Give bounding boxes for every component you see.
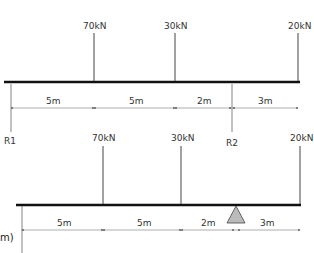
load-label-20kn: 20kN (288, 21, 311, 31)
dim-label-2: 5m (129, 96, 144, 106)
dim2-label-2: 5m (137, 218, 152, 228)
dim-label-1: 5m (46, 96, 61, 106)
beam-diagram: 70kN 30kN 20kN R1 R2 5m 5m 2m 3m 70kN 30… (0, 0, 314, 253)
top-beam-diagram: 70kN 30kN 20kN R1 R2 5m 5m 2m 3m (4, 21, 311, 148)
bottom-beam-diagram: 70kN 30kN 20kN 5m 5m 2m 3m m) (0, 133, 313, 253)
load-label-70kn: 70kN (83, 21, 106, 31)
dim2-label-4: 3m (260, 218, 275, 228)
load-label-30kn-2: 30kN (171, 133, 194, 143)
side-label: m) (0, 232, 14, 243)
reaction-r2-label: R2 (226, 138, 238, 148)
dim2-label-1: 5m (57, 218, 72, 228)
load-label-70kn-2: 70kN (92, 133, 115, 143)
reaction-r1-label: R1 (4, 136, 16, 146)
dim2-label-3: 2m (201, 218, 216, 228)
dim-label-3: 2m (197, 96, 212, 106)
load-label-30kn: 30kN (164, 21, 187, 31)
pin-support-icon (227, 206, 245, 223)
dim-label-4: 3m (258, 96, 273, 106)
load-label-20kn-2: 20kN (290, 133, 313, 143)
